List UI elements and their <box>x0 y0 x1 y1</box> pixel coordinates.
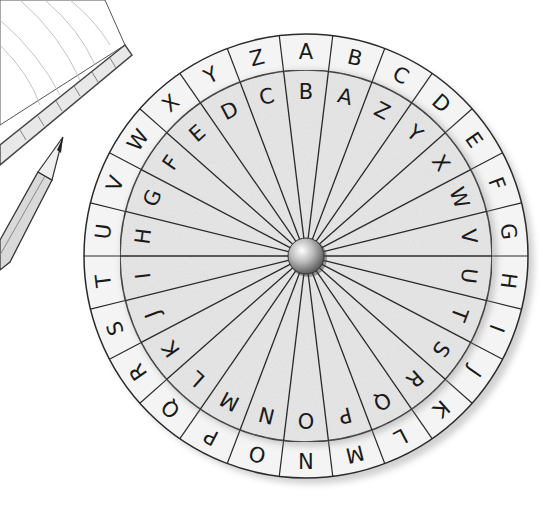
outer-letter-n: N <box>298 448 314 472</box>
inner-letter-h: H <box>130 227 156 246</box>
outer-letter-a: A <box>299 40 314 64</box>
inner-letter-b: B <box>299 80 313 104</box>
outer-letter-h: H <box>496 271 522 290</box>
outer-letter-u: U <box>91 222 117 240</box>
inner-letter-o: O <box>298 408 315 432</box>
inner-letter-u: U <box>456 267 482 285</box>
notebook <box>0 0 132 165</box>
outer-letter-g: G <box>496 222 522 241</box>
cipher-wheel-illustration: ABCDEFGHIJKLMNOPQRSTUVWXYZ BAZYXWVUTSRQP… <box>0 0 559 511</box>
